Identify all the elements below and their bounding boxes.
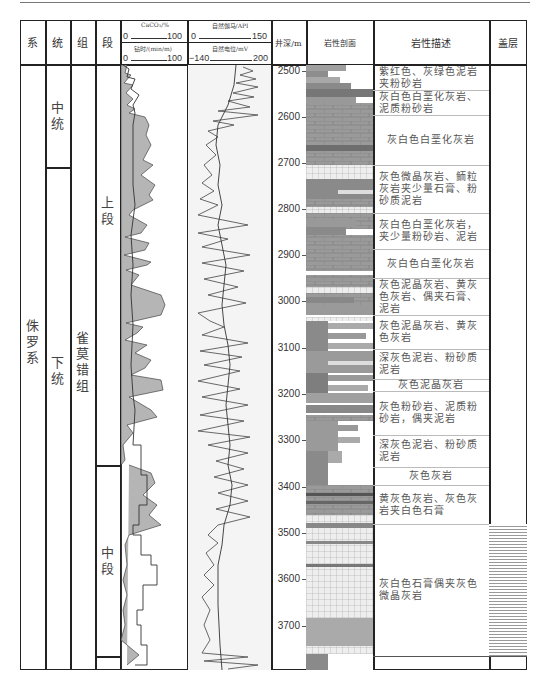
drill-max: 100	[167, 53, 182, 63]
desc-divider	[373, 656, 489, 657]
member-middle-label: 中段	[99, 545, 115, 577]
caprock-divider	[489, 656, 527, 657]
member-boundary	[95, 465, 120, 467]
system-label: 侏罗系	[24, 318, 40, 366]
litho-desc-row: 灰白色白垩化灰岩、泥质粉砂岩	[373, 90, 489, 115]
litho-desc-row: 灰色微晶灰岩、鲕粒灰岩夹少量石膏、粉砂质泥岩	[373, 165, 489, 213]
header-system: 系	[20, 20, 45, 64]
litho-desc-row: 灰白色白垩化灰岩	[373, 115, 489, 165]
caprock-pattern	[489, 524, 527, 656]
depth-label: 2900	[278, 249, 300, 260]
caco3-min: 0	[123, 31, 128, 41]
depth-label: 2600	[278, 111, 300, 122]
litho-desc-row: 灰白色白垩化灰岩，夹少量粉砂岩、泥岩	[373, 213, 489, 249]
litho-desc-row: 深灰色泥岩、粉砂质泥岩	[373, 349, 489, 379]
gr-scale-bar	[199, 38, 251, 39]
series-boundary	[45, 167, 70, 169]
gr-sp-track	[188, 65, 271, 670]
header-member: 段	[95, 20, 120, 64]
depth-label: 3200	[278, 388, 300, 399]
litho-desc-row: 灰色泥晶灰岩、黄灰色灰岩	[373, 315, 489, 349]
litho-desc-row: 灰色粉砂岩、泥质粉砂岩，偶夹泥岩	[373, 391, 489, 435]
depth-label: 2500	[278, 65, 300, 76]
header-litho-desc: 岩性描述	[373, 20, 489, 64]
depth-track: 2500 2600 2700 2800 2900 3000 3100 3200 …	[271, 0, 306, 684]
depth-label: 3500	[278, 527, 300, 538]
caco3-label: CaCO₃/%	[130, 21, 180, 28]
col-divider	[95, 20, 97, 670]
member-boundary	[95, 656, 120, 658]
sp-max: 200	[253, 53, 268, 63]
gr-max: 150	[252, 31, 267, 41]
caco3-scale-bar	[131, 38, 167, 39]
litho-desc-row: 紫红色、灰绿色泥岩夹粉砂岩	[373, 65, 489, 90]
litho-desc-row: 灰色灰岩	[373, 467, 489, 485]
depth-label: 3700	[278, 620, 300, 631]
litho-desc-row: 灰色泥晶灰岩	[373, 379, 489, 391]
series-middle-label: 中统	[49, 100, 65, 132]
caco3-drilltime-track	[121, 65, 187, 670]
header-formation: 组	[70, 20, 95, 64]
header-litho-profile: 岩性剖面	[306, 20, 373, 64]
gr-label: 自然伽马/API	[205, 21, 255, 30]
depth-label: 2800	[278, 203, 300, 214]
sp-scale-bar	[210, 60, 252, 61]
header-subdivider	[120, 42, 271, 43]
lithology-profile	[306, 65, 373, 670]
depth-label: 3100	[278, 342, 300, 353]
drill-scale-bar	[131, 60, 167, 61]
litho-desc-row: 黄灰色灰岩、灰色灰岩夹白色石膏	[373, 485, 489, 524]
litho-desc-row: 灰白色石膏偶夹灰色微晶灰岩	[373, 524, 489, 656]
depth-label: 2700	[278, 157, 300, 168]
col-divider	[45, 20, 47, 670]
drill-min: 0	[123, 53, 128, 63]
depth-label: 3000	[278, 295, 300, 306]
sp-min: −140	[189, 53, 209, 63]
series-lower-label: 下统	[49, 355, 65, 387]
depth-label: 3600	[278, 573, 300, 584]
header-series: 统	[45, 20, 70, 64]
depth-label: 3300	[278, 434, 300, 445]
litho-desc-row: 灰白色白垩化灰岩	[373, 249, 489, 278]
depth-label: 3400	[278, 481, 300, 492]
sp-label: 自然电位/mV	[205, 44, 255, 53]
member-upper-label: 上段	[99, 195, 115, 227]
caco3-max: 100	[167, 31, 182, 41]
drill-label: 钻时/(min/m)	[128, 44, 178, 53]
gr-min: 0	[191, 31, 196, 41]
header-caprock: 盖层	[489, 20, 527, 64]
litho-desc-row: 深灰色泥岩、粉砂质泥岩	[373, 435, 489, 467]
col-divider	[70, 20, 72, 670]
litho-desc-row: 灰色泥晶灰岩、黄灰色灰岩、偶夹石膏、泥岩	[373, 278, 489, 315]
formation-label: 雀莫错组	[74, 330, 90, 394]
